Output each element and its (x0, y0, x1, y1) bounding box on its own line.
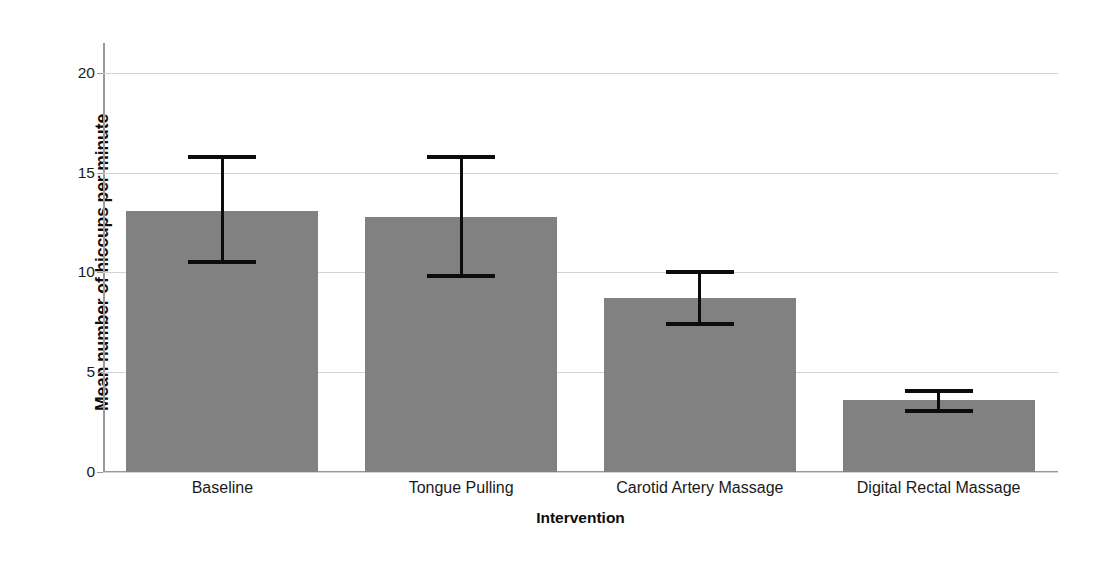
x-axis-title: Intervention (103, 509, 1058, 527)
error-bar-cap-lower (427, 274, 495, 278)
error-bar-stem (460, 157, 463, 277)
error-bar-cap-upper (905, 389, 973, 393)
y-tick-label: 10 (78, 263, 95, 281)
error-bar-cap-upper (427, 155, 495, 159)
y-tick-label: 0 (86, 463, 95, 481)
error-bar-stem (937, 391, 940, 411)
error-bar-cap-lower (188, 260, 256, 264)
y-tick-label: 5 (86, 363, 95, 381)
y-tick-label: 20 (78, 64, 95, 82)
x-category-label: Digital Rectal Massage (819, 479, 1058, 497)
x-category-label: Carotid Artery Massage (581, 479, 820, 497)
error-bar-cap-upper (188, 155, 256, 159)
bar-chart: Mean number of hiccups per minute 051015… (0, 0, 1098, 563)
gridline-0 (103, 472, 1058, 473)
x-category-label: Tongue Pulling (342, 479, 581, 497)
x-axis-category-labels: BaselineTongue PullingCarotid Artery Mas… (103, 479, 1058, 507)
x-category-label: Baseline (103, 479, 342, 497)
y-tick-mark-0 (97, 472, 103, 473)
error-bar-stem (221, 157, 224, 263)
error-bar-cap-lower (905, 409, 973, 413)
bars-layer (103, 43, 1058, 472)
y-tick-label: 15 (78, 164, 95, 182)
error-bar-stem (698, 272, 701, 324)
y-axis-tick-labels: 05101520 (48, 43, 96, 472)
error-bar-cap-upper (666, 270, 734, 274)
error-bar-cap-lower (666, 322, 734, 326)
